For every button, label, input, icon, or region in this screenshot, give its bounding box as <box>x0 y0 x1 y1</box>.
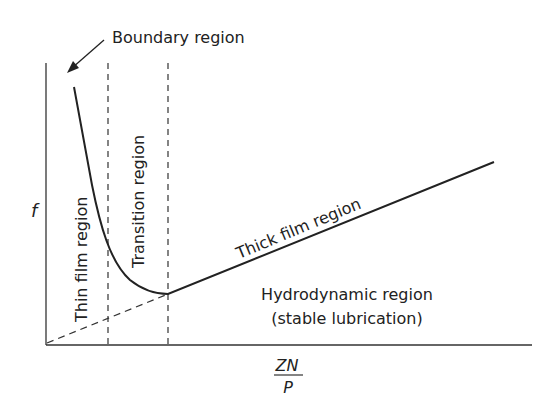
thick-film-region-label: Thick film region <box>232 194 363 263</box>
y-axis-label: f <box>31 200 40 221</box>
stable-lubrication-label: (stable lubrication) <box>271 309 422 328</box>
boundary-region-label: Boundary region <box>112 28 245 47</box>
hydrodynamic-region-label: Hydrodynamic region <box>261 285 433 304</box>
thin-film-region-label: Thin film region <box>72 197 91 323</box>
x-axis-label-numerator: ZN <box>275 356 299 375</box>
extrapolation-dashed-line <box>47 294 168 343</box>
x-axis-label-denominator: P <box>283 378 293 397</box>
boundary-arrow-shaft <box>72 40 104 68</box>
lubrication-diagram: Boundary region Thin film region Transit… <box>0 0 559 417</box>
transition-region-label: Transition region <box>129 135 148 269</box>
